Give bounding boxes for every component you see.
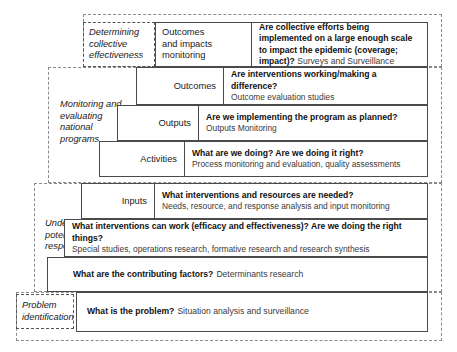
step-method-contributing-factors: Determinants research — [216, 269, 303, 280]
step-outcomes-and-impacts-monitoring[interactable]: Outcomes and impacts monitoring Are coll… — [155, 22, 428, 67]
step-outcomes[interactable]: Outcomes Are interventions working/makin… — [136, 67, 428, 105]
step-question-contributing-factors: What are the contributing factors? — [73, 269, 213, 280]
step-content-outcomes: Are interventions working/making a diffe… — [224, 68, 427, 104]
step-method-outcomes: Outcome evaluation studies — [231, 92, 421, 103]
step-method-interventions-efficacy: Special studies, operations research, fo… — [72, 244, 421, 255]
framework-diagram: Determining collective effectiveness Mon… — [0, 0, 457, 352]
step-contributing-factors[interactable]: What are the contributing factors? Deter… — [47, 257, 428, 292]
step-method-inputs: Needs, resource, and response analysis a… — [162, 201, 421, 212]
step-problem[interactable]: What is the problem? Situation analysis … — [76, 292, 428, 332]
step-content-outputs: Are we implementing the program as plann… — [199, 106, 427, 140]
step-question-activities: What are we doing? Are we doing it right… — [192, 148, 421, 159]
step-level-outcomes: Outcomes — [137, 68, 224, 104]
phase-label-problem-identification: Problem identification — [22, 300, 74, 323]
step-content-problem: What is the problem? Situation analysis … — [77, 293, 427, 331]
step-level-inputs: Inputs — [82, 184, 155, 218]
step-question-outputs: Are we implementing the program as plann… — [206, 112, 421, 123]
step-content-inputs: What interventions and resources are nee… — [155, 184, 427, 218]
step-content-outcomes-and-impacts-monitoring: Are collective efforts being implemented… — [252, 23, 427, 66]
step-content-contributing-factors: What are the contributing factors? Deter… — [48, 258, 427, 291]
step-method-activities: Process monitoring and evaluation, quali… — [192, 159, 421, 170]
step-method-outcomes-and-impacts-monitoring: Surveys and Surveillance — [297, 56, 394, 66]
step-content-activities: What are we doing? Are we doing it right… — [185, 142, 427, 176]
step-question-outcomes: Are interventions working/making a diffe… — [231, 69, 421, 91]
step-level-outputs: Outputs — [118, 106, 199, 140]
step-interventions-efficacy[interactable]: What interventions can work (efficacy an… — [64, 219, 428, 257]
step-level-outcomes-and-impacts-monitoring: Outcomes and impacts monitoring — [156, 23, 252, 66]
phase-label-box-determining-collective-effectiveness: Determining collective effectiveness — [83, 22, 155, 67]
step-level-activities: Activities — [100, 142, 185, 176]
step-method-problem: Situation analysis and surveillance — [177, 306, 308, 317]
phase-label-determining-collective-effectiveness: Determining collective effectiveness — [89, 27, 143, 62]
step-question-inputs: What interventions and resources are nee… — [162, 190, 421, 201]
step-content-interventions-efficacy: What interventions can work (efficacy an… — [65, 220, 427, 256]
step-method-outputs: Outputs Monitoring — [206, 123, 421, 134]
phase-label-box-problem-identification: Problem identification — [16, 294, 74, 329]
step-question-problem: What is the problem? — [87, 306, 174, 317]
step-outputs[interactable]: Outputs Are we implementing the program … — [117, 105, 428, 141]
step-activities[interactable]: Activities What are we doing? Are we doi… — [99, 141, 428, 177]
step-question-interventions-efficacy: What interventions can work (efficacy an… — [72, 221, 421, 243]
step-inputs[interactable]: Inputs What interventions and resources … — [81, 183, 428, 219]
